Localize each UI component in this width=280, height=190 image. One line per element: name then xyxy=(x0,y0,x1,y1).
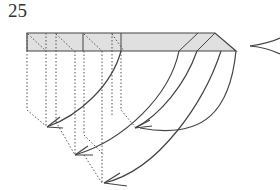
fold-diagram xyxy=(0,0,280,190)
pleat-strip xyxy=(27,33,236,51)
view-pinch-arrow xyxy=(250,38,280,54)
